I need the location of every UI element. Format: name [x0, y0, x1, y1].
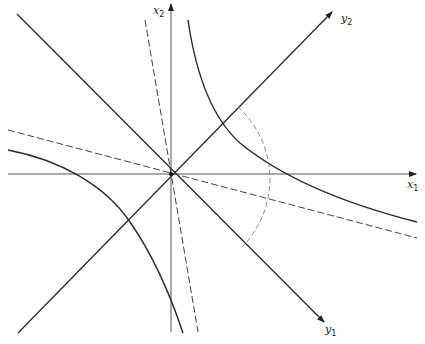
- hyperbola-upper-right: [188, 20, 417, 222]
- x2-label: x2: [153, 4, 164, 19]
- y2-label: y2: [340, 12, 352, 27]
- rotation-arc-dashed: [238, 107, 270, 247]
- asymptote-shallow-dashed: [8, 130, 417, 238]
- x1-label: x1: [407, 178, 418, 193]
- origin-point: [169, 172, 173, 176]
- y1-label: y1: [324, 323, 336, 338]
- diagram-canvas: x2 y2 x1 y1: [0, 0, 425, 344]
- hyperbola-lower-left: [8, 150, 183, 333]
